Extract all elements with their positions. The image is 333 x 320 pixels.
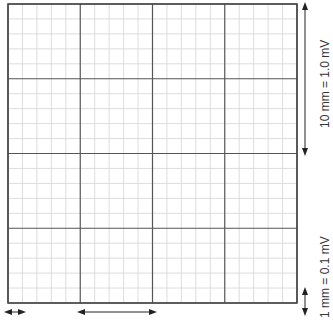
large-scale-label: 10 mm = 1.0 mV — [318, 40, 332, 128]
small-scale-label: 1 mm = 0.1 mV — [318, 236, 332, 318]
ecg-grid — [0, 0, 333, 320]
